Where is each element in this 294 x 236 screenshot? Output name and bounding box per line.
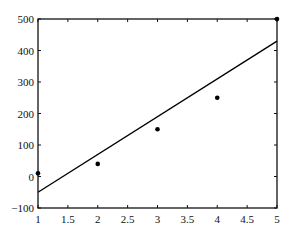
y-tick-label: 0: [29, 171, 35, 183]
x-tick-label: 1.5: [61, 213, 75, 225]
data-point: [95, 162, 100, 167]
data-point: [36, 171, 41, 176]
y-tick-label: 100: [18, 139, 35, 151]
y-tick-label: 300: [18, 76, 35, 88]
x-tick-label: 3: [155, 213, 161, 225]
x-tick-label: 2.5: [121, 213, 135, 225]
y-tick-label: 500: [18, 13, 35, 25]
data-point: [275, 17, 280, 22]
plot-area: [38, 19, 277, 208]
data-point: [215, 95, 220, 100]
y-tick-label: 200: [18, 108, 35, 120]
scatter-plot-with-fit-line: 11.522.533.544.55 −1000100200300400500: [0, 0, 294, 236]
data-point: [155, 127, 160, 132]
x-tick-label: 4.5: [240, 213, 254, 225]
x-tick-label: 1: [35, 213, 41, 225]
y-tick-label: 400: [18, 45, 35, 57]
x-tick-label: 4: [215, 213, 221, 225]
x-tick-label: 3.5: [181, 213, 195, 225]
x-tick-label: 2: [95, 213, 101, 225]
y-tick-label: −100: [11, 202, 34, 214]
x-tick-label: 5: [274, 213, 280, 225]
